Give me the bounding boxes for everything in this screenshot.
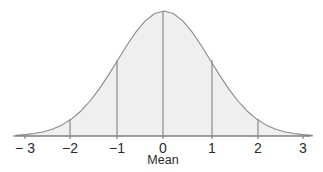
axis-caption-mean: Mean [147, 153, 178, 167]
x-tick-label: 1 [208, 140, 216, 156]
x-tick-label: −2 [62, 140, 78, 156]
x-tick-label: − 3 [15, 140, 35, 156]
x-tick-label: 3 [299, 140, 307, 156]
normal-distribution-figure: − 3−2−10123 Mean [0, 0, 323, 172]
bell-curve-area [16, 11, 313, 136]
x-tick-label: 2 [254, 140, 262, 156]
x-tick-label: −1 [109, 140, 125, 156]
